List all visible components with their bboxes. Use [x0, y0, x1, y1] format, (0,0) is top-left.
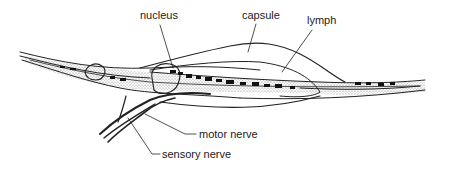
- sensory-nerve-leader: [128, 118, 160, 154]
- motor-nerve: [100, 93, 210, 138]
- muscle-spindle-diagram: nucleus capsule lymph motor nerve sensor…: [0, 0, 461, 172]
- capsule-leader: [248, 24, 256, 52]
- nucleus-label: nucleus: [140, 9, 178, 21]
- capsule-label: capsule: [242, 9, 280, 21]
- motor-nerve-label: motor nerve: [199, 128, 258, 140]
- lymph-label: lymph: [307, 14, 336, 26]
- motor-nerve-leader: [145, 114, 196, 134]
- sensory-nerve-label: sensory nerve: [162, 148, 231, 160]
- lymph-leader: [282, 30, 312, 72]
